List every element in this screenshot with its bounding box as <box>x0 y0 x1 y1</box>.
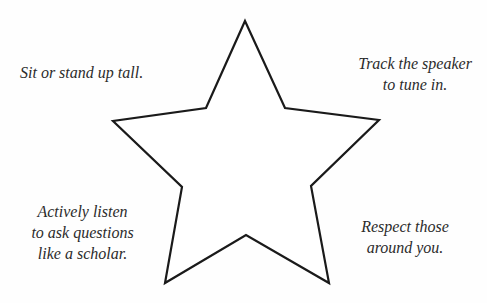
note-line: to tune in. <box>353 74 477 95</box>
note-line: like a scholar. <box>20 243 145 264</box>
note-sit-tall: Sit or stand up tall. <box>20 62 143 83</box>
note-line: Actively listen <box>20 201 145 222</box>
note-actively-listen: Actively listen to ask questions like a … <box>20 201 145 264</box>
note-line: around you. <box>350 237 460 258</box>
worksheet-page: Sit or stand up tall. Track the speaker … <box>0 0 487 303</box>
note-respect-others: Respect those around you. <box>350 216 460 258</box>
note-line: Track the speaker <box>353 53 477 74</box>
note-line: Sit or stand up tall. <box>20 62 143 83</box>
note-line: Respect those <box>350 216 460 237</box>
note-track-speaker: Track the speaker to tune in. <box>353 53 477 95</box>
star-shape <box>113 21 379 283</box>
note-line: to ask questions <box>20 222 145 243</box>
